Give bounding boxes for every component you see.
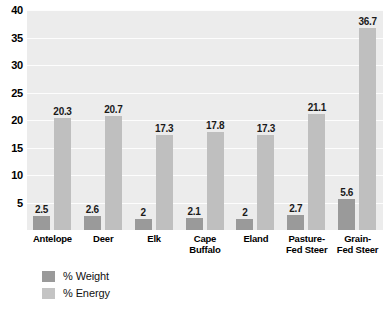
bar-value-label: 2	[242, 208, 247, 218]
legend-label: % Weight	[63, 271, 109, 282]
bar-value-label: 2	[141, 208, 146, 218]
bar-weight: 2	[135, 219, 152, 230]
plot-area: 2.520.32.620.7217.32.117.8217.32.721.15.…	[27, 10, 383, 230]
x-axis-labels: AntelopeDeerElkCapeBuffaloElandPasture-F…	[27, 233, 383, 263]
bar-group: 2.117.8	[180, 10, 231, 230]
legend-item: % Energy	[42, 285, 110, 302]
bar-group: 217.3	[230, 10, 281, 230]
bar-value-label: 5.6	[340, 188, 353, 198]
bar-value-label: 2.6	[86, 205, 99, 215]
bar-group: 2.520.3	[27, 10, 78, 230]
bar-value-label: 2.5	[35, 205, 48, 215]
bar-weight: 2.5	[33, 216, 50, 230]
x-axis-label: CapeBuffalo	[180, 233, 231, 255]
legend-item: % Weight	[42, 268, 110, 285]
bar-group: 2.620.7	[78, 10, 129, 230]
bar-energy: 36.7	[359, 28, 376, 230]
bar-value-label: 17.3	[155, 124, 173, 134]
bar-energy: 17.3	[156, 135, 173, 230]
bar-weight: 5.6	[338, 199, 355, 230]
bar-value-label: 17.3	[257, 124, 275, 134]
legend-swatch-weight	[42, 271, 55, 282]
bar-energy: 17.3	[257, 135, 274, 230]
y-tick-label: 30	[0, 60, 23, 71]
bar-weight: 2	[236, 219, 253, 230]
bar-group: 2.721.1	[281, 10, 332, 230]
y-tick-label: 25	[0, 88, 23, 99]
bar-weight: 2.1	[186, 218, 203, 230]
x-axis-label: Grain-Fed Steer	[332, 233, 383, 255]
x-axis-label: Pasture-Fed Steer	[281, 233, 332, 255]
y-tick-label: 15	[0, 143, 23, 154]
bar-value-label: 17.8	[206, 121, 224, 131]
legend-swatch-energy	[42, 288, 55, 299]
bar-chart: 510152025303540 2.520.32.620.7217.32.117…	[0, 0, 390, 315]
bar-value-label: 20.7	[104, 105, 122, 115]
bar-energy: 21.1	[308, 114, 325, 230]
bar-value-label: 2.1	[188, 207, 201, 217]
bar-weight: 2.7	[287, 215, 304, 230]
bar-weight: 2.6	[84, 216, 101, 230]
bar-energy: 17.8	[207, 132, 224, 230]
y-tick-label: 40	[0, 5, 23, 16]
x-axis-label: Elk	[129, 233, 180, 244]
x-axis-label: Deer	[78, 233, 129, 244]
x-axis-label: Antelope	[27, 233, 78, 244]
bar-value-label: 21.1	[308, 103, 326, 113]
y-tick-label: 35	[0, 33, 23, 44]
bar-group: 5.636.7	[332, 10, 383, 230]
bar-energy: 20.3	[54, 118, 71, 230]
bar-group: 217.3	[129, 10, 180, 230]
y-tick-label: 5	[0, 198, 23, 209]
bar-energy: 20.7	[105, 116, 122, 230]
y-tick-label: 10	[0, 170, 23, 181]
y-tick-label: 20	[0, 115, 23, 126]
legend-label: % Energy	[63, 288, 110, 299]
x-axis-label: Eland	[230, 233, 281, 244]
y-axis: 510152025303540	[0, 0, 27, 240]
bar-value-label: 36.7	[359, 17, 377, 27]
bar-value-label: 2.7	[289, 204, 302, 214]
bar-value-label: 20.3	[53, 107, 71, 117]
chart-legend: % Weight% Energy	[42, 268, 110, 302]
